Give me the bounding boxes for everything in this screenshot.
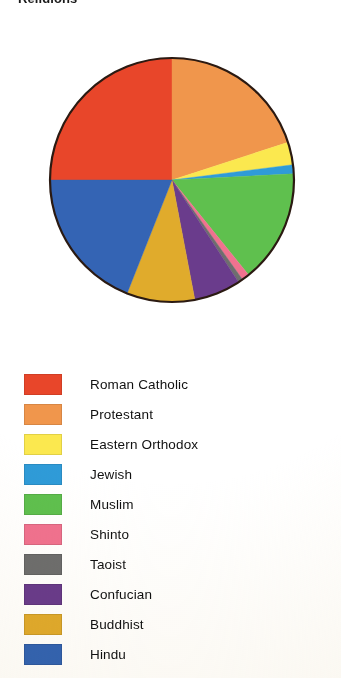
legend-item-label: Roman Catholic: [90, 377, 188, 392]
legend-item: Taoist: [0, 549, 341, 579]
legend-item: Hindu: [0, 639, 341, 669]
legend-item-label: Jewish: [90, 467, 132, 482]
pie-chart-svg: [0, 0, 341, 330]
legend-color-swatch: [24, 374, 62, 395]
legend-item-label: Confucian: [90, 587, 152, 602]
pie-chart: [0, 0, 341, 330]
legend-item: Muslim: [0, 489, 341, 519]
legend-color-swatch: [24, 464, 62, 485]
legend-color-swatch: [24, 434, 62, 455]
legend-item: Confucian: [0, 579, 341, 609]
legend-item: Protestant: [0, 399, 341, 429]
legend-item-label: Eastern Orthodox: [90, 437, 198, 452]
legend-item-label: Muslim: [90, 497, 134, 512]
legend-color-swatch: [24, 554, 62, 575]
legend-item: Buddhist: [0, 609, 341, 639]
legend-item-label: Protestant: [90, 407, 153, 422]
legend-color-swatch: [24, 644, 62, 665]
legend-item-label: Hindu: [90, 647, 126, 662]
legend-item: Roman Catholic: [0, 369, 341, 399]
legend-item-label: Shinto: [90, 527, 129, 542]
legend-color-swatch: [24, 614, 62, 635]
legend-item: Jewish: [0, 459, 341, 489]
pie-slice-group: [50, 58, 294, 302]
legend-item-label: Buddhist: [90, 617, 144, 632]
legend: Roman CatholicProtestantEastern Orthodox…: [0, 369, 341, 669]
legend-item: Eastern Orthodox: [0, 429, 341, 459]
legend-color-swatch: [24, 584, 62, 605]
legend-item-label: Taoist: [90, 557, 126, 572]
legend-color-swatch: [24, 524, 62, 545]
legend-item: Shinto: [0, 519, 341, 549]
legend-color-swatch: [24, 404, 62, 425]
pie-slice: [50, 58, 172, 180]
legend-color-swatch: [24, 494, 62, 515]
